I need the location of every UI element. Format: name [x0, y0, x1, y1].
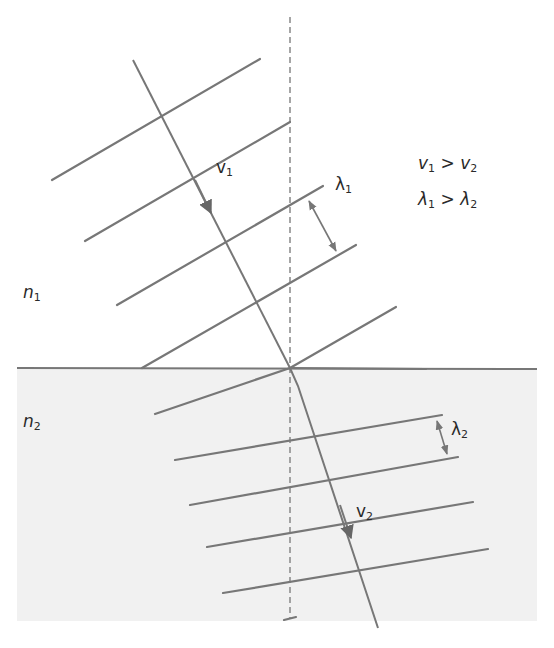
medium-2-label: n2 — [23, 413, 41, 432]
wavefront — [290, 368, 426, 369]
wavefront — [290, 307, 396, 368]
wavelength-relation: λ1 > λ2 — [418, 191, 477, 210]
velocity-2-label: v2 — [356, 503, 373, 522]
velocity-1-label: v1 — [216, 159, 233, 178]
incident-ray-arrow — [195, 180, 211, 213]
medium-1-label: n1 — [23, 284, 41, 303]
lambda-2-label: λ2 — [451, 421, 468, 440]
refraction-diagram — [0, 0, 554, 648]
incident-ray — [133, 60, 290, 368]
interface-line — [17, 368, 537, 369]
lambda-1-label: λ1 — [335, 176, 352, 195]
lambda-1-arrow — [309, 201, 336, 251]
incident-wavefronts — [52, 59, 396, 368]
velocity-relation: v1 > v2 — [418, 155, 477, 174]
